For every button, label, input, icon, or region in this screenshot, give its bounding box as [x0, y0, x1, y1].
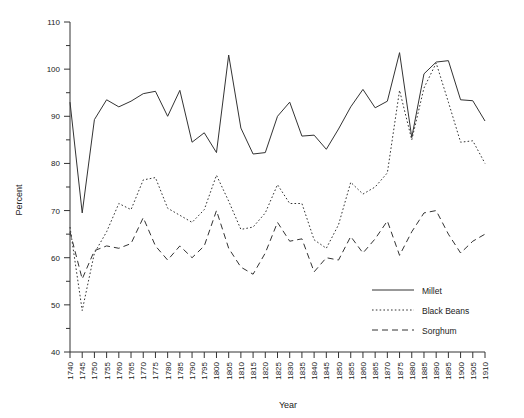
x-tick-label: 1750	[90, 361, 99, 379]
y-tick-label: 70	[51, 207, 60, 216]
y-tick-label: 90	[51, 112, 60, 121]
x-tick-label: 1780	[164, 361, 173, 379]
x-axis-tick-labels: 1740174517501755176017651770177517801785…	[66, 361, 490, 379]
series-line-sorghum	[70, 211, 485, 279]
data-series-group	[70, 53, 485, 311]
x-tick-label: 1910	[481, 361, 490, 379]
x-tick-label: 1875	[396, 361, 405, 379]
x-tick-label: 1830	[286, 361, 295, 379]
x-tick-label: 1865	[371, 361, 380, 379]
x-tick-label: 1885	[420, 361, 429, 379]
x-tick-label: 1810	[237, 361, 246, 379]
x-tick-label: 1870	[383, 361, 392, 379]
line-chart: 405060708090100110 174017451750175517601…	[0, 0, 524, 418]
x-tick-label: 1900	[457, 361, 466, 379]
chart-legend: MilletBlack BeansSorghum	[372, 286, 469, 336]
y-axis-group: 405060708090100110	[47, 18, 70, 357]
series-line-millet	[70, 53, 485, 213]
x-tick-label: 1825	[274, 361, 283, 379]
legend-label-black-beans: Black Beans	[422, 306, 469, 316]
x-tick-label: 1845	[322, 361, 331, 379]
x-tick-label: 1850	[335, 361, 344, 379]
x-tick-label: 1880	[408, 361, 417, 379]
x-tick-label: 1745	[78, 361, 87, 379]
legend-label-sorghum: Sorghum	[422, 326, 457, 336]
x-tick-label: 1905	[469, 361, 478, 379]
x-tick-label: 1815	[249, 361, 258, 379]
y-tick-label: 40	[51, 348, 60, 357]
x-tick-label: 1760	[115, 361, 124, 379]
y-tick-label: 80	[51, 159, 60, 168]
x-tick-label: 1755	[103, 361, 112, 379]
x-tick-label: 1765	[127, 361, 136, 379]
y-axis-tick-labels: 405060708090100110	[47, 18, 61, 357]
x-tick-label: 1805	[225, 361, 234, 379]
legend-label-millet: Millet	[422, 286, 442, 296]
x-axis-group: 1740174517501755176017651770177517801785…	[66, 352, 490, 380]
y-tick-label: 100	[47, 65, 61, 74]
x-tick-label: 1795	[200, 361, 209, 379]
y-tick-label: 110	[47, 18, 60, 27]
chart-container: 405060708090100110 174017451750175517601…	[0, 0, 524, 418]
y-tick-label: 50	[51, 301, 60, 310]
x-tick-label: 1890	[432, 361, 441, 379]
x-tick-label: 1800	[212, 361, 221, 379]
x-tick-label: 1770	[139, 361, 148, 379]
x-tick-label: 1855	[347, 361, 356, 379]
x-tick-label: 1840	[310, 361, 319, 379]
x-axis-title: Year	[279, 400, 297, 410]
x-tick-label: 1790	[188, 361, 197, 379]
x-tick-label: 1820	[261, 361, 270, 379]
x-tick-label: 1785	[176, 361, 185, 379]
x-tick-label: 1860	[359, 361, 368, 379]
y-tick-label: 60	[51, 254, 60, 263]
x-tick-label: 1895	[444, 361, 453, 379]
x-axis-ticks	[70, 352, 485, 358]
y-axis-title: Percent	[14, 184, 24, 216]
x-tick-label: 1835	[298, 361, 307, 379]
x-tick-label: 1775	[151, 361, 160, 379]
x-tick-label: 1740	[66, 361, 75, 379]
y-axis-minor-ticks	[66, 46, 70, 329]
